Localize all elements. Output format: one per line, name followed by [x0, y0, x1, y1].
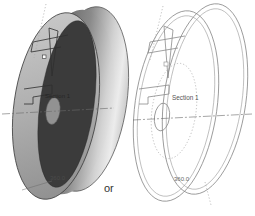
wire-axis-centerline-bottom — [205, 182, 211, 205]
wire-sketch-grip-point — [164, 62, 168, 66]
wire-back-inner — [156, 4, 255, 195]
sketch-grip-point — [43, 55, 47, 59]
cad-figure-svg: Section 1 360.0 — [0, 0, 255, 216]
or-connector-text: or — [104, 182, 114, 194]
shaded-cylinder-figure: Section 1 360.0 — [1, 1, 139, 205]
wire-horizontal-centerline — [133, 114, 252, 120]
right-section-label: Section 1 — [172, 94, 199, 101]
left-section-label: Section 1 — [45, 93, 71, 99]
wireframe-cylinder-figure: Section 1 360.0 — [122, 0, 255, 207]
construction-circle — [146, 60, 203, 161]
right-angle-label: 360.0 — [174, 176, 190, 182]
wire-back-outer — [151, 0, 255, 200]
left-angle-label: 360.0 — [50, 175, 66, 181]
wire-revolve-profile-sketch — [139, 26, 185, 104]
figure-canvas: Section 1 360.0 — [0, 0, 255, 216]
wire-front-inner — [127, 11, 226, 202]
